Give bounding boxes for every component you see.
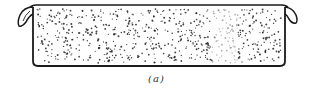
right-handle-lip	[285, 7, 297, 23]
dot-fill	[37, 8, 282, 64]
tray-outline	[33, 7, 285, 66]
tray-rim	[30, 5, 288, 7]
figure-caption: (a)	[0, 73, 313, 84]
left-handle-lip	[18, 7, 33, 26]
